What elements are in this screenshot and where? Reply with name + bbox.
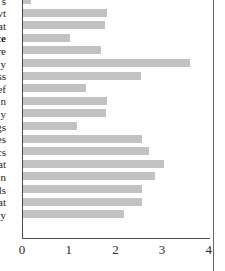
bar <box>23 84 86 92</box>
bar <box>23 59 190 67</box>
bar-category-label: re <box>0 45 6 58</box>
bar-row: ss <box>0 70 212 83</box>
bar-row: y <box>0 108 212 121</box>
bar-row: ce <box>0 32 212 45</box>
bar <box>23 198 142 206</box>
bar <box>23 122 77 130</box>
bar-chart: svtatcereyssefnygsescsatnlsaty 01234 <box>0 0 225 271</box>
bar <box>23 185 142 193</box>
bar <box>23 0 31 4</box>
page-margin <box>221 0 225 271</box>
bar-row: at <box>0 158 212 171</box>
bar-category-label: s <box>0 0 6 7</box>
bar-row: s <box>0 0 212 7</box>
x-tick-label: 4 <box>197 242 221 258</box>
bar-category-label: vt <box>0 7 6 20</box>
bar-row: es <box>0 133 212 146</box>
bar-row: n <box>0 95 212 108</box>
bar-category-label: y <box>0 58 6 71</box>
bar-category-label: ce <box>0 32 6 45</box>
bar-category-label: y <box>0 209 6 222</box>
bar-category-label: at <box>0 196 6 209</box>
bar-category-label: ef <box>0 83 6 96</box>
bar <box>23 109 106 117</box>
bar-row: gs <box>0 121 212 134</box>
bar-category-label: cs <box>0 146 6 159</box>
x-axis-line <box>22 238 210 239</box>
bar <box>23 34 70 42</box>
bar-category-label: at <box>0 20 6 33</box>
bar-category-label: at <box>0 158 6 171</box>
bar <box>23 135 142 143</box>
bar <box>23 147 149 155</box>
bar-row: ef <box>0 83 212 96</box>
page-edge-rule <box>213 0 214 271</box>
bar <box>23 97 107 105</box>
bar-category-label: ls <box>0 184 6 197</box>
bar-category-label: y <box>0 108 6 121</box>
x-tick-label: 1 <box>57 242 81 258</box>
bar <box>23 9 107 17</box>
bar-row: ls <box>0 184 212 197</box>
plot-area: svtatcereyssefnygsescsatnlsaty 01234 <box>0 0 212 245</box>
bar-row: cs <box>0 146 212 159</box>
bar-category-label: es <box>0 133 6 146</box>
x-tick-label: 3 <box>150 242 174 258</box>
bar-category-label: ss <box>0 70 6 83</box>
bar-row: y <box>0 58 212 71</box>
bar-row: vt <box>0 7 212 20</box>
bar-row: n <box>0 171 212 184</box>
bar-row: y <box>0 209 212 222</box>
bar-category-label: n <box>0 171 6 184</box>
bar <box>23 72 141 80</box>
bar <box>23 210 124 218</box>
x-tick-label: 0 <box>10 242 34 258</box>
x-tick-label: 2 <box>103 242 127 258</box>
bar-row: re <box>0 45 212 58</box>
bar <box>23 46 101 54</box>
bar-row: at <box>0 20 212 33</box>
bar-category-label: n <box>0 95 6 108</box>
bar <box>23 172 155 180</box>
bar-category-label: gs <box>0 121 6 134</box>
bar-row: at <box>0 196 212 209</box>
bar <box>23 160 164 168</box>
bar <box>23 21 105 29</box>
